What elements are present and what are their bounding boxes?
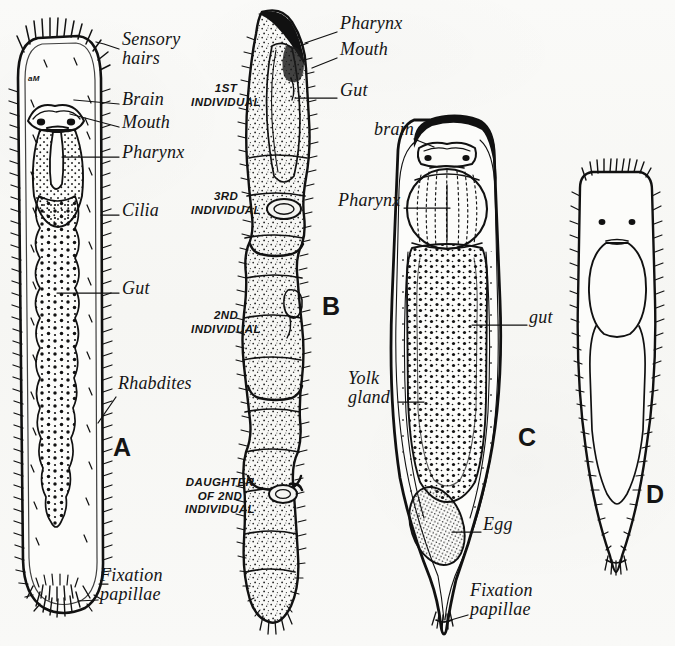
label-c-pharynx: Pharynx (338, 191, 400, 210)
label-b-gut: Gut (340, 81, 368, 100)
label-a-inner-mark: aM (28, 75, 40, 83)
label-a-sensory-hairs: Sensory hairs (122, 30, 180, 68)
label-b-3rd-individual: 3RD INDIVIDUAL (187, 190, 265, 217)
label-b-1st-individual: 1ST INDIVIDUAL (187, 82, 265, 109)
label-a-fixation-papillae: Fixation papillae (100, 566, 163, 604)
figure-letter-c: C (518, 424, 536, 450)
figure-letter-d: D (646, 481, 664, 507)
label-c-brain: brain (374, 120, 414, 139)
label-c-yolk-gland: Yolk gland (348, 369, 390, 407)
label-b-pharynx: Pharynx (340, 14, 402, 33)
leader-b-pharynx (305, 32, 337, 43)
label-b-daughter-of-2nd-individual: DAUGHTER OF 2ND INDIVIDUAL (174, 476, 266, 517)
label-a-mouth: Mouth (122, 113, 170, 132)
label-c-fixation-papillae: Fixation papillae (470, 581, 533, 619)
leader-a-sensory-hairs (96, 42, 119, 49)
label-a-pharynx: Pharynx (122, 143, 184, 162)
label-a-cilia: Cilia (122, 201, 159, 220)
label-b-mouth: Mouth (340, 40, 388, 59)
figure-letter-a: A (113, 434, 131, 460)
figure-letter-b: B (322, 293, 340, 319)
figure-c-worm (391, 115, 501, 634)
label-b-2nd-individual: 2ND INDIVIDUAL (187, 309, 265, 336)
leader-b-mouth (312, 58, 337, 68)
label-c-egg: Egg (483, 515, 513, 534)
label-a-brain: Brain (122, 90, 164, 109)
label-a-rhabdites: Rhabdites (118, 374, 192, 393)
label-a-gut: Gut (122, 279, 150, 298)
figure-a-worm (9, 18, 112, 617)
label-c-gut: gut (529, 308, 553, 327)
illustration-page: Sensory hairs Brain Mouth Pharynx Cilia … (0, 0, 675, 646)
figure-d-worm (570, 159, 664, 575)
figure-artwork (0, 0, 675, 646)
